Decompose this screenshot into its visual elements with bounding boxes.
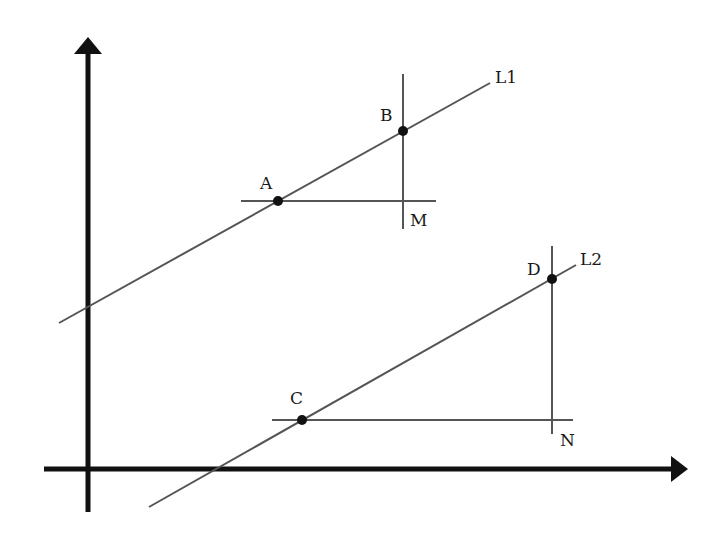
point-a: [273, 196, 283, 206]
y-axis-arrow-icon: [74, 37, 102, 54]
point-label-d: D: [527, 259, 541, 279]
point-b: [398, 126, 408, 136]
labels: L1 L2 A B M C D N: [259, 67, 602, 450]
point-c: [297, 415, 307, 425]
point-label-m: M: [410, 210, 427, 230]
point-d: [547, 274, 557, 284]
point-label-n: N: [560, 430, 575, 450]
lines: [59, 83, 576, 507]
point-label-b: B: [380, 105, 393, 125]
line-label-l1: L1: [495, 67, 517, 87]
diagram-canvas: L1 L2 A B M C D N: [0, 0, 721, 543]
point-label-a: A: [259, 173, 273, 193]
line-label-l2: L2: [580, 249, 602, 269]
point-label-c: C: [290, 388, 303, 408]
axes: [44, 37, 688, 512]
x-axis-arrow-icon: [671, 456, 688, 482]
points: [273, 126, 557, 425]
